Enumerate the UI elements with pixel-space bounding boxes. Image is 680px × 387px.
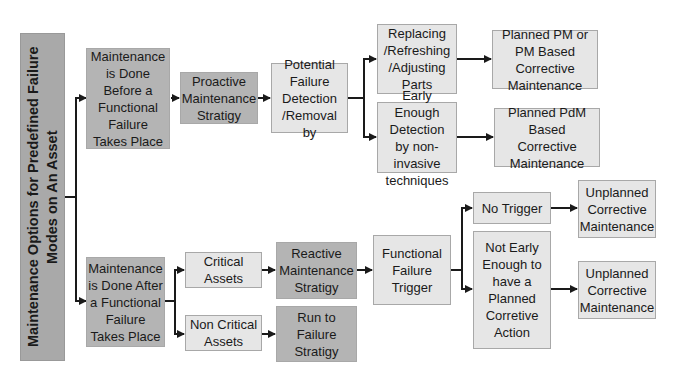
node-non-critical-assets: Non Critical Assets [185, 315, 262, 351]
node-planned-pdm: Planned PdM Based Corrective Maintenance [494, 108, 600, 167]
node-no-trigger: No Trigger [473, 192, 551, 224]
node-after-failure: Maintenance is Done After a Functional F… [86, 257, 165, 347]
node-critical-assets: Critical Assets [185, 252, 262, 288]
node-unplanned-corrective-1: Unplanned Corrective Maintenance [578, 180, 656, 238]
node-planned-pm: Planned PM or PM Based Corrective Mainte… [492, 30, 598, 89]
node-functional-failure-trigger: Functional Failure Trigger [373, 235, 451, 305]
node-replacing-parts: Replacing /Refreshing /Adjusting Parts [377, 24, 457, 94]
root-node: Maintenance Options for Predefined Failu… [20, 33, 65, 361]
node-run-to-failure: Run to Failure Stratigy [276, 306, 357, 362]
root-label: Maintenance Options for Predefined Failu… [24, 36, 62, 358]
node-potential-failure-detection: Potential Failure Detection /Removal by [271, 63, 348, 133]
node-unplanned-corrective-2: Unplanned Corrective Maintenance [578, 261, 656, 319]
node-early-detection: Early Enough Detection by non-invasive t… [377, 102, 457, 173]
node-before-failure: Maintenance is Done Before a Functional … [86, 48, 170, 149]
node-proactive-strategy: Proactive Maintenance Stratigy [180, 72, 258, 124]
node-not-early-enough: Not Early Enough to have a Planned Corre… [473, 231, 551, 349]
node-reactive-strategy: Reactive Maintenance Stratigy [276, 242, 357, 299]
